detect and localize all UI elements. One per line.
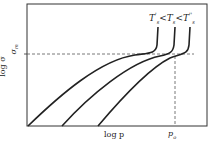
- curve-t-prime: [28, 27, 158, 126]
- curve-t: [62, 27, 175, 126]
- curve-t-double-prime: [98, 27, 190, 126]
- legend-label: T's<Ts<T''s: [149, 11, 195, 25]
- y-axis-label: log σ: [0, 56, 7, 77]
- p-o-label: po: [168, 129, 176, 140]
- x-axis-label: log p: [104, 130, 124, 139]
- sigma-m-label: σm: [9, 44, 20, 54]
